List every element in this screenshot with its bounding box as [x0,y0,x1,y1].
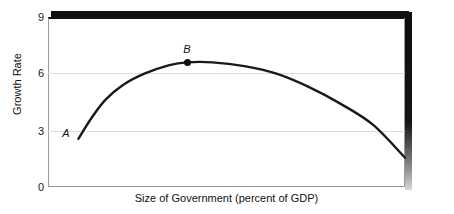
point-b-label: B [183,44,190,55]
plot-area [48,17,405,187]
gridline-y3 [48,131,405,132]
point-b-marker [184,59,191,66]
plot-frame-shadow-right [405,12,412,190]
y-axis-title: Growth Rate [11,34,23,134]
y-tick-label-6: 6 [4,68,44,79]
chart-figure: 9 6 3 0 Growth Rate Size of Government (… [0,0,454,214]
y-tick-label-0: 0 [4,182,44,193]
y-tick-label-9: 9 [4,12,44,23]
point-a-label: A [62,128,69,139]
gridline-y6 [48,73,405,74]
y-tick-label-3: 3 [4,126,44,137]
x-axis-title: Size of Government (percent of GDP) [48,192,405,204]
